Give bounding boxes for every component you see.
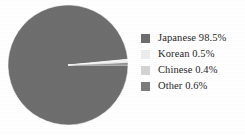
- legend-item-japanese[interactable]: Japanese 98.5%: [141, 30, 245, 46]
- legend-swatch-japanese: [141, 34, 150, 43]
- pie-chart-svg: [4, 1, 134, 134]
- legend-item-chinese[interactable]: Chinese 0.4%: [141, 62, 245, 78]
- legend-swatch-korean: [141, 50, 150, 59]
- legend-label-japanese: Japanese 98.5%: [158, 32, 226, 44]
- legend-item-korean[interactable]: Korean 0.5%: [141, 46, 245, 62]
- pie-chart-figure: Japanese 98.5% Korean 0.5% Chinese 0.4% …: [0, 0, 245, 135]
- legend-item-other[interactable]: Other 0.6%: [141, 78, 245, 94]
- legend-label-chinese: Chinese 0.4%: [158, 64, 218, 76]
- legend-swatch-other: [141, 82, 150, 91]
- chart-legend: Japanese 98.5% Korean 0.5% Chinese 0.4% …: [141, 30, 245, 94]
- pie-chart-plot-area: [4, 1, 134, 134]
- legend-label-other: Other 0.6%: [158, 80, 207, 92]
- pie-slice-group: [8, 5, 128, 125]
- legend-label-korean: Korean 0.5%: [158, 48, 215, 60]
- legend-swatch-chinese: [141, 66, 150, 75]
